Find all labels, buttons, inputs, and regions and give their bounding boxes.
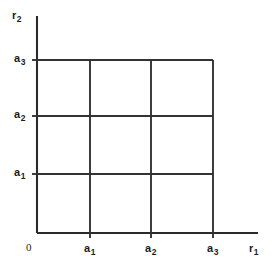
y-tick-label-a3: a3 <box>14 53 25 67</box>
y-tick-label-a3-subscript: 3 <box>20 57 25 67</box>
x-tick-label-a2-subscript: 2 <box>151 247 156 257</box>
x-tick-label-a1: a1 <box>84 243 95 257</box>
x-tick-label-a1-subscript: 1 <box>90 247 95 257</box>
x-axis-label-subscript: 1 <box>253 247 258 257</box>
figure-canvas: r2 a3 a2 a1 0 a1 a2 a3 r1 <box>0 0 277 269</box>
x-tick-label-a3: a3 <box>207 243 218 257</box>
y-tick-label-a1-subscript: 1 <box>20 171 25 181</box>
y-tick-label-a1: a1 <box>14 167 25 181</box>
origin-label: 0 <box>26 242 32 253</box>
y-axis-label-subscript: 2 <box>16 14 21 24</box>
y-tick-label-a2-subscript: 2 <box>20 113 25 123</box>
x-axis-label: r1 <box>249 243 259 257</box>
y-tick-label-a2: a2 <box>14 109 25 123</box>
x-tick-label-a3-subscript: 3 <box>213 247 218 257</box>
diagram-svg <box>0 0 277 269</box>
x-tick-label-a2: a2 <box>145 243 156 257</box>
y-axis-label: r2 <box>12 10 22 24</box>
